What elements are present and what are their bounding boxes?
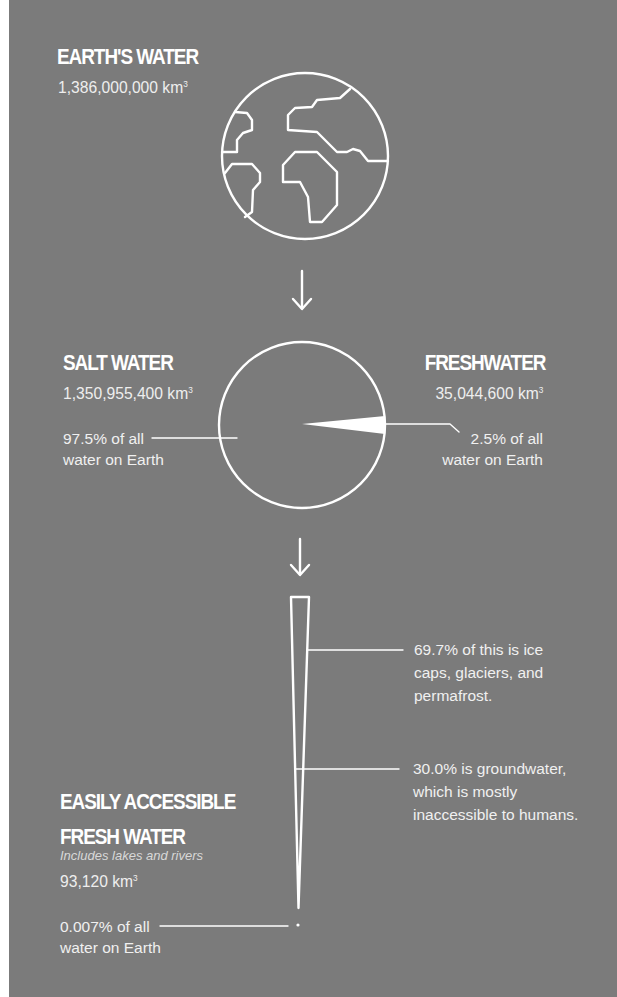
freshwater-wedge xyxy=(302,416,385,434)
accessible-water-title: EASILY ACCESSIBLEFRESH WATER xyxy=(60,784,235,854)
freshwater-percent-note: 2.5% of allwater on Earth xyxy=(442,428,543,470)
accessible-water-dot xyxy=(296,923,299,926)
freshwater-breakdown-triangle xyxy=(291,597,309,908)
earth-globe-icon xyxy=(222,73,388,239)
salt-water-volume: 1,350,955,400 km3 xyxy=(63,384,193,404)
accessible-water-percent-note: 0.007% of allwater on Earth xyxy=(60,916,161,958)
salt-water-title: SALT WATER xyxy=(63,350,173,376)
freshwater-volume: 35,044,600 km3 xyxy=(435,384,543,404)
accessible-water-subtitle: Includes lakes and rivers xyxy=(60,848,203,863)
groundwater-note: 30.0% is groundwater,which is mostlyinac… xyxy=(413,757,578,826)
ice-caps-note: 69.7% of this is icecaps, glaciers, andp… xyxy=(414,638,543,707)
accessible-water-volume: 93,120 km3 xyxy=(60,872,138,892)
freshwater-title: FRESHWATER xyxy=(424,350,545,376)
arrow-down-icon xyxy=(291,539,309,575)
salt-water-percent-note: 97.5% of allwater on Earth xyxy=(63,428,164,470)
earth-water-volume: 1,386,000,000 km3 xyxy=(58,78,188,98)
arrow-down-icon xyxy=(293,271,311,309)
earth-water-title: EARTH'S WATER xyxy=(57,44,198,70)
